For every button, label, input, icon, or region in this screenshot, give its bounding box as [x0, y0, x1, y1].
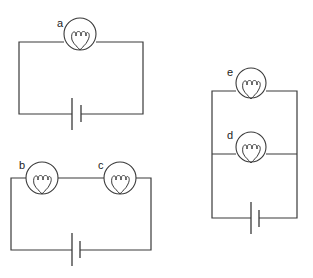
bulb-label-b: b	[19, 159, 25, 171]
bulb-label-d: d	[227, 129, 233, 141]
bulb-label-c: c	[98, 159, 104, 171]
battery-symbol	[251, 202, 259, 234]
battery-symbol	[72, 98, 81, 130]
bulb-c	[104, 162, 136, 194]
bulb-a	[64, 18, 96, 50]
bulb-b	[26, 162, 58, 194]
circuit-parallel: e d	[212, 66, 297, 234]
circuit-diagram: a b c e d	[0, 0, 313, 278]
wire	[19, 42, 143, 114]
bulb-d	[236, 132, 266, 163]
bulb-label-e: e	[227, 66, 233, 78]
bulb-e	[236, 68, 266, 99]
bulb-label-a: a	[57, 17, 64, 29]
circuit-single-bulb: a	[19, 17, 143, 130]
battery-symbol	[72, 233, 80, 266]
circuit-series: b c	[11, 159, 151, 266]
